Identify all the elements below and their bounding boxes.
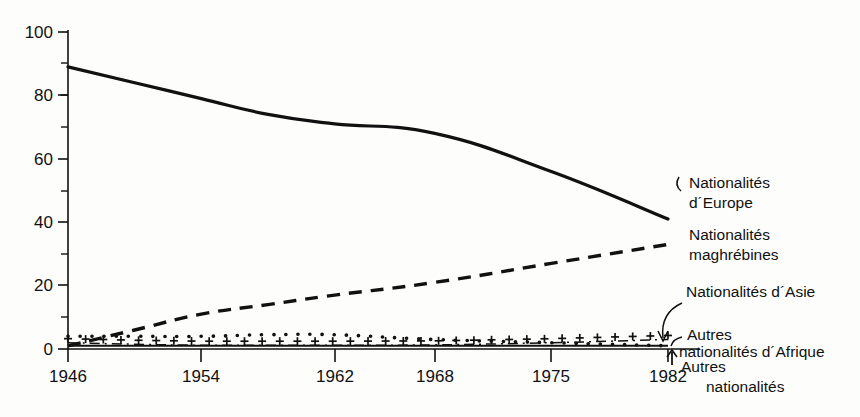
y-label-60: 60 — [34, 150, 53, 169]
line-chart-svg: 100 80 60 40 20 0 1946 1954 1962 1968 19… — [0, 0, 860, 417]
x-label-1962: 1962 — [316, 367, 354, 386]
x-label-1968: 1968 — [416, 367, 454, 386]
leader-asie-arrow — [663, 303, 682, 338]
series-layer — [64, 67, 672, 346]
annotation-autres-line2: nationalités — [706, 378, 785, 395]
annotation-autres-line1: Autres — [681, 358, 726, 375]
x-label-1975: 1975 — [532, 367, 570, 386]
y-label-20: 20 — [34, 276, 53, 295]
axes — [68, 30, 700, 349]
x-label-1946: 1946 — [49, 367, 87, 386]
x-label-1954: 1954 — [182, 367, 220, 386]
annotation-europe-line1: Nationalités — [689, 174, 770, 191]
x-axis-ticks — [68, 349, 668, 362]
series-line-europe — [68, 67, 668, 219]
series-markers-afrique — [64, 331, 672, 345]
y-axis-labels: 100 80 60 40 20 0 — [25, 23, 53, 359]
annotation-maghreb-line1: Nationalités — [689, 226, 770, 243]
series-line-maghrebines — [68, 244, 668, 345]
leader-europe-icon — [677, 177, 681, 191]
y-axis-ticks — [58, 32, 68, 349]
chart-figure: 100 80 60 40 20 0 1946 1954 1962 1968 19… — [0, 0, 860, 417]
y-label-40: 40 — [34, 213, 53, 232]
annotation-europe-line2: d´Europe — [689, 194, 753, 211]
y-label-0: 0 — [44, 340, 53, 359]
y-label-80: 80 — [34, 86, 53, 105]
annotation-labels: Nationalités d´Europe Nationalités maghr… — [679, 174, 825, 395]
annotation-maghreb-line2: maghrébines — [689, 246, 779, 263]
annotation-asie-line1: Nationalités d´Asie — [686, 283, 815, 300]
y-label-100: 100 — [25, 23, 53, 42]
x-axis-labels: 1946 1954 1962 1968 1975 1982 — [49, 367, 687, 386]
annotation-afrique-line1: Autres — [687, 326, 732, 343]
annotation-leaders — [658, 177, 682, 365]
